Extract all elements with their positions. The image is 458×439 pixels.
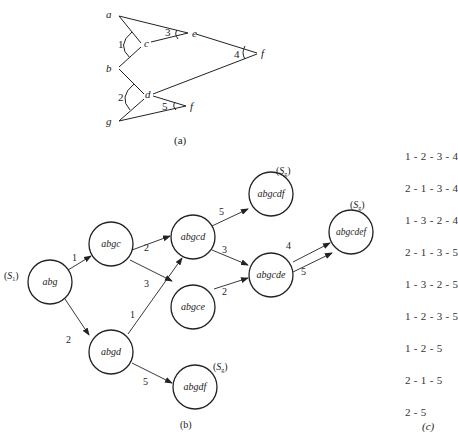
node-label-abgcde: abgcde <box>257 269 286 280</box>
node-label-abg: abg <box>43 276 58 287</box>
edge-label-abgcd-abgcdf: 5 <box>219 206 224 217</box>
edge-label-abgcde-abgcdef-5: 5 <box>301 266 306 277</box>
line-a-e <box>119 16 188 33</box>
goal-state-label-abgdf: (Sg) <box>213 361 228 373</box>
edge-label-abgcde-abgcdef-4: 4 <box>286 240 291 251</box>
angle-arc-4 <box>243 46 245 59</box>
caption-c: (c) <box>422 420 434 432</box>
point-label-e: e <box>192 27 197 39</box>
edge-abgcd-abgcde <box>212 250 248 265</box>
sequence-item: 2 - 1 - 5 <box>405 374 443 386</box>
part-a-linkage <box>119 16 257 121</box>
angle-label-4: 4 <box>234 48 240 60</box>
caption-a: (a) <box>174 134 187 147</box>
goal-state-label-abgcdef: (Sg) <box>350 199 365 211</box>
sequence-item: 1 - 2 - 5 <box>405 342 443 354</box>
point-label-f-top: f <box>261 47 266 59</box>
sequence-item: 1 - 2 - 3 - 4 <box>405 150 458 162</box>
point-label-g: g <box>106 115 112 127</box>
edge-abgd-abgdf <box>132 363 172 383</box>
goal-state-label-abgcdf: (Sg) <box>276 165 291 177</box>
point-label-d: d <box>145 88 151 100</box>
point-label-a: a <box>106 8 112 20</box>
edge-label-abgd-abgdf: 5 <box>143 376 148 387</box>
sequence-item: 2 - 1 - 3 - 5 <box>405 246 458 258</box>
sequence-item: 1 - 2 - 3 - 5 <box>405 310 458 322</box>
line-d-f2 <box>153 96 186 106</box>
part-b-nodes <box>28 172 373 409</box>
node-label-abgcdef: abgcdef <box>336 227 367 237</box>
node-label-abgcdf: abgcdf <box>257 188 285 199</box>
edge-abgcde-abgcdef-5 <box>293 253 332 272</box>
edge-label-abgcd-abgcde: 3 <box>222 244 227 255</box>
angle-arc-3 <box>176 30 178 39</box>
angle-arc-2 <box>125 84 134 110</box>
edge-abgc-abgcd <box>132 236 170 250</box>
edge-label-abgc-abgcd: 2 <box>144 242 149 253</box>
node-label-abgdf: abgdf <box>184 381 208 392</box>
edge-abgc-abgce <box>130 260 172 281</box>
edge-label-abg-abgc: 1 <box>72 252 77 263</box>
angle-label-1: 1 <box>118 38 124 50</box>
edge-label-abgce-abgcde: 2 <box>222 286 227 297</box>
point-label-f-bottom: f <box>190 100 195 112</box>
line-c-b <box>119 47 141 67</box>
node-label-abgcd: abgcd <box>181 231 206 242</box>
sequence-item: 2 - 5 <box>405 406 427 418</box>
edge-abgce-abgcde <box>214 278 248 289</box>
edge-abgcde-abgcdef-4 <box>293 243 330 262</box>
edge-abg-abgd <box>65 299 89 335</box>
line-d-f <box>153 54 257 94</box>
edge-label-abg-abgd: 2 <box>66 334 71 345</box>
edge-abgcd-abgcdf <box>212 209 248 226</box>
angle-label-5: 5 <box>162 100 168 112</box>
caption-b: (b) <box>180 419 192 431</box>
edge-label-abgc-abgce: 3 <box>144 278 149 289</box>
angle-label-2: 2 <box>118 91 124 103</box>
point-label-c: c <box>144 37 149 49</box>
start-state-label: (S1) <box>4 270 19 282</box>
sequence-item: 1 - 3 - 2 - 5 <box>405 278 458 290</box>
node-label-abgd: abgd <box>101 346 122 357</box>
node-label-abgce: abgce <box>181 301 205 312</box>
angle-label-3: 3 <box>165 26 171 38</box>
angle-arc-1 <box>123 32 132 58</box>
node-label-abgc: abgc <box>101 238 121 249</box>
sequence-item: 2 - 1 - 3 - 4 <box>405 182 458 194</box>
edge-label-abgd-abgcd: 1 <box>130 309 135 320</box>
point-label-b: b <box>106 62 112 74</box>
line-e-f <box>196 34 257 53</box>
sequence-item: 1 - 3 - 2 - 4 <box>405 214 458 226</box>
